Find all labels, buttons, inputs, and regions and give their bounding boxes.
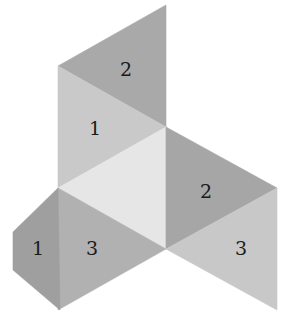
face-label-right-2: 2 [200, 180, 212, 202]
polyhedron-net-diagram: 212331 [0, 0, 293, 332]
net-faces [13, 5, 277, 310]
face-label-left-1: 1 [32, 237, 44, 259]
face-label-left-3: 3 [86, 237, 98, 259]
face-label-upper-1: 1 [89, 117, 101, 139]
face-label-right-3: 3 [235, 237, 247, 259]
face-label-top-2: 2 [120, 58, 132, 80]
